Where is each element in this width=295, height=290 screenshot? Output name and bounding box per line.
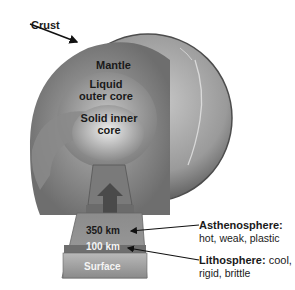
surface-label: Surface: [84, 261, 121, 273]
outer-core-label-line2: outer core: [76, 90, 136, 102]
earth-interior-diagram: [0, 0, 295, 290]
depth-100-label: 100 km: [86, 241, 120, 253]
lithosphere-callout: Lithosphere: cool,: [199, 254, 292, 266]
lithosphere-title: Lithosphere:: [199, 254, 266, 266]
depth-350-label: 350 km: [86, 225, 120, 237]
asthenosphere-description: hot, weak, plastic: [199, 232, 280, 244]
lithosphere-description-line2: rigid, brittle: [199, 267, 250, 279]
crust-label: Crust: [31, 19, 60, 31]
asthenosphere-title: Asthenosphere:: [199, 219, 283, 231]
inner-core-label-line1: Solid inner: [76, 112, 142, 124]
lithosphere-description-line1: cool,: [266, 254, 292, 266]
inner-core-label-line2: core: [76, 124, 142, 136]
mantle-label: Mantle: [96, 59, 131, 71]
outer-core-label-line1: Liquid: [76, 78, 136, 90]
